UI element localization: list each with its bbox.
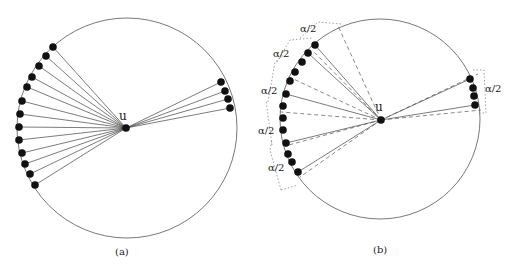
node-dot xyxy=(15,136,23,144)
edge-line xyxy=(381,79,470,120)
angle-label-alpha-half: α/2 xyxy=(261,85,277,96)
node-dot xyxy=(288,158,296,166)
node-dot xyxy=(15,123,23,131)
node-dot xyxy=(284,150,292,158)
node-dot xyxy=(21,160,29,168)
node-dot xyxy=(28,73,36,81)
angle-label-alpha-half: α/2 xyxy=(300,23,316,34)
node-dot xyxy=(31,181,39,189)
node-dot xyxy=(471,101,479,109)
edge-line xyxy=(286,120,381,143)
edge-line xyxy=(22,101,126,128)
node-dot xyxy=(279,114,287,122)
sector-boundary-dashed xyxy=(381,110,481,120)
node-dot xyxy=(217,78,225,86)
angle-label-alpha-half: α/2 xyxy=(485,83,501,94)
angle-label-alpha-half: α/2 xyxy=(273,48,289,59)
edge-line xyxy=(32,77,126,128)
node-dot xyxy=(279,102,287,110)
node-dot xyxy=(18,97,26,105)
node-dot xyxy=(282,90,290,98)
sector-boundary-dashed xyxy=(285,120,381,146)
node-dot xyxy=(279,126,287,134)
node-dot xyxy=(221,87,229,95)
panel-b: α/2α/2α/2α/2α/2α/2 xyxy=(258,19,501,219)
node-dot xyxy=(311,41,319,49)
caption-a: (a) xyxy=(115,246,129,257)
sector-boundary-dashed xyxy=(312,50,381,120)
edge-line xyxy=(315,45,381,120)
edge-line xyxy=(381,105,475,120)
node-dot xyxy=(466,75,474,83)
node-dot xyxy=(226,104,234,112)
edge-line xyxy=(20,114,126,128)
node-dot xyxy=(18,149,26,157)
node-dot xyxy=(42,52,50,60)
angle-bracket-dotted xyxy=(281,185,298,190)
node-dot xyxy=(291,68,299,76)
node-dot xyxy=(294,168,302,176)
node-dot xyxy=(16,110,24,118)
center-label-a: u xyxy=(119,109,127,123)
edge-line xyxy=(46,56,126,128)
caption-b: (b) xyxy=(373,244,387,255)
node-dot xyxy=(304,49,312,57)
node-dot xyxy=(224,95,232,103)
node-dot xyxy=(286,77,294,85)
panel-a xyxy=(15,18,237,238)
angle-label-alpha-half: α/2 xyxy=(268,162,284,173)
edge-line xyxy=(53,47,126,128)
node-dot xyxy=(469,84,477,92)
node-dot xyxy=(23,83,31,91)
node-dot xyxy=(470,92,478,100)
node-dot xyxy=(298,58,306,66)
edge-line xyxy=(19,127,126,128)
edge-line xyxy=(126,91,225,128)
edge-line xyxy=(298,120,381,172)
figure-diagram: α/2α/2α/2α/2α/2α/2 u (a) u (b) xyxy=(0,0,512,266)
center-node-u xyxy=(377,116,385,124)
edge-line xyxy=(30,128,126,174)
edge-line xyxy=(22,128,126,153)
edge-line xyxy=(126,108,230,128)
node-dot xyxy=(26,170,34,178)
node-dot xyxy=(282,139,290,147)
sector-boundary-dashed xyxy=(300,120,381,177)
angle-bracket-dotted xyxy=(266,100,272,145)
center-label-b: u xyxy=(375,100,383,114)
center-node-u xyxy=(122,124,130,132)
angle-label-alpha-half: α/2 xyxy=(258,125,274,136)
node-dot xyxy=(35,62,43,70)
node-dot xyxy=(49,43,57,51)
